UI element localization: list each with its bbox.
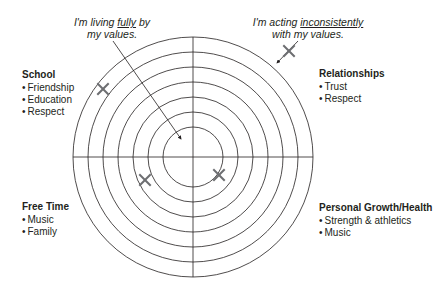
list-item: Family xyxy=(22,226,69,238)
list-item: Music xyxy=(319,227,432,239)
category-title: Relationships xyxy=(319,68,385,80)
list-item: Trust xyxy=(319,81,385,93)
category-free-time: Free Time Music Family xyxy=(22,201,69,238)
emphasis-inconsistently: inconsistently xyxy=(300,16,363,28)
annotation-outer: I'm acting inconsistently with my values… xyxy=(252,16,364,40)
list-item: Education xyxy=(22,94,74,106)
x-mark-relationships xyxy=(284,46,294,56)
list-item: Strength & athletics xyxy=(319,215,432,227)
annotation-inner: I'm living fully by my values. xyxy=(72,16,152,40)
list-item: Music xyxy=(22,214,69,226)
category-personal-growth: Personal Growth/Health Strength & athlet… xyxy=(319,202,432,239)
arrow-inner xyxy=(113,41,181,139)
emphasis-fully: fully xyxy=(117,16,136,28)
category-title: School xyxy=(22,69,74,81)
x-mark-school xyxy=(98,84,108,94)
x-mark-free-time xyxy=(140,175,150,185)
category-relationships: Relationships Trust Respect xyxy=(319,68,385,105)
category-school: School Friendship Education Respect xyxy=(22,69,74,118)
values-wheel xyxy=(0,0,441,292)
category-title: Personal Growth/Health xyxy=(319,202,432,214)
list-item: Respect xyxy=(22,106,74,118)
list-item: Friendship xyxy=(22,82,74,94)
category-title: Free Time xyxy=(22,201,69,213)
list-item: Respect xyxy=(319,93,385,105)
